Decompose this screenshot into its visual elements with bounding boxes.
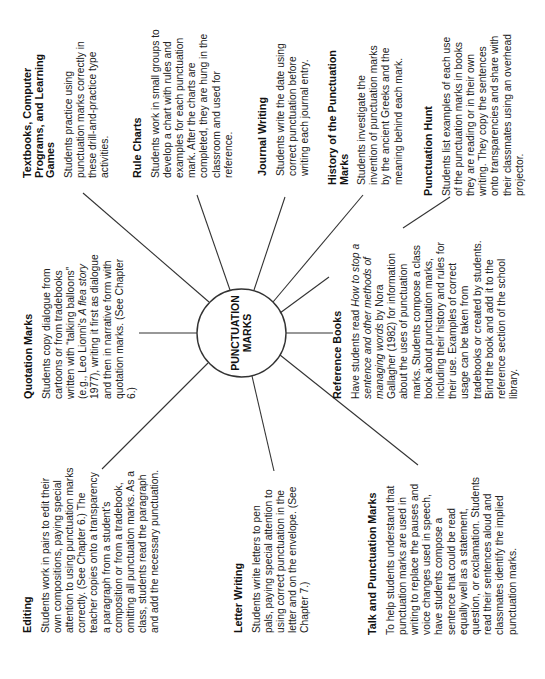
center-label-line2: MARKS [241,295,253,371]
node-title: Textbooks, Computer Programs, and Learni… [22,34,57,178]
node-title: Journal Writing [257,28,269,176]
node-title: Editing [22,465,34,633]
node-talk-punctuation: Talk and Punctuation Marks To help stude… [367,475,519,635]
node-editing: Editing Students work in pairs to edit t… [22,465,162,633]
line-reference-upper [280,277,329,313]
node-title: Talk and Punctuation Marks [367,475,379,635]
node-title: Reference Books [332,239,344,399]
node-title: Letter Writing [233,481,245,633]
node-journal-writing: Journal Writing Students write the date … [257,28,311,176]
node-title: History of the Punctuation Marks [327,40,350,185]
node-body: Students copy dialogue from cartoons or … [41,247,139,399]
line-letter [252,376,274,471]
body-text: 1977), writing it first as dialogue and … [89,254,137,399]
node-quotation-marks: Quotation Marks Students copy dialogue f… [23,247,138,399]
punctuation-web-diagram: PUNCTUATION MARKS Textbooks, Computer Pr… [0,0,545,679]
node-reference-books: Reference Books Have students read How t… [332,239,520,399]
line-journal [254,197,285,290]
center-label: PUNCTUATION MARKS [229,295,253,371]
center-label-line1: PUNCTUATION [229,295,241,371]
node-body: Have students read How to stop a sentenc… [350,239,521,399]
node-body: Students list examples of each use of th… [441,30,526,196]
node-body: Students work in small groups to develop… [150,22,235,178]
node-body: Students investigate the invention of pu… [356,40,405,185]
book-title: A flea story [77,264,88,315]
node-body: Students write the date using correct pu… [275,28,312,176]
line-rule-charts [197,195,230,290]
node-body: Students write letters to pen pals, payi… [251,481,312,633]
node-body: Students practice using punctuation mark… [63,34,112,178]
node-body: To help students understand that punctua… [385,475,519,635]
node-history: History of the Punctuation Marks Student… [327,40,405,185]
node-title: Quotation Marks [23,247,35,399]
node-title: Punctuation Hunt [423,30,435,196]
node-textbooks: Textbooks, Computer Programs, and Learni… [22,34,111,178]
body-text: Have students read [350,307,361,399]
node-punctuation-hunt: Punctuation Hunt Students list examples … [423,30,526,196]
node-rule-charts: Rule Charts Students work in small group… [132,22,235,178]
body-text: by Nora Gallagher (1982) for information… [374,240,519,399]
node-body: Students work in pairs to edit their own… [40,465,162,633]
line-punctuation-hunt [403,197,450,228]
node-title: Rule Charts [132,22,144,178]
node-letter-writing: Letter Writing Students write letters to… [233,481,312,633]
